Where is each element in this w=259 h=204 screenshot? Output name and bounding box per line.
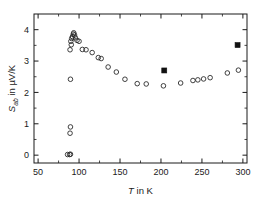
- x-tick-label: 100: [72, 167, 87, 177]
- data-point-filled-square: [162, 68, 167, 73]
- data-point-open-circle: [68, 47, 73, 52]
- y-tick-label: 4: [24, 25, 29, 35]
- data-point-open-circle: [161, 84, 166, 89]
- x-axis-major-ticks: [38, 14, 243, 163]
- data-point-open-circle: [196, 78, 201, 83]
- x-axis-title-text: T in K: [128, 185, 153, 196]
- data-point-open-circle: [144, 82, 149, 87]
- data-point-open-circle: [135, 81, 140, 86]
- data-point-open-circle: [106, 65, 111, 70]
- data-point-open-circle: [90, 50, 95, 55]
- x-tick-label: 250: [194, 167, 209, 177]
- data-point-filled-square: [235, 43, 240, 48]
- y-tick-label: 1: [24, 119, 29, 129]
- data-point-open-circle: [96, 55, 101, 60]
- plot-frame: [34, 14, 247, 163]
- data-point-open-circle: [68, 125, 73, 130]
- data-point-open-circle: [123, 77, 128, 82]
- plot-box-border: [34, 14, 247, 163]
- y-axis-title: Sab in µV/K: [6, 64, 18, 112]
- x-axis-title: T in K: [128, 185, 153, 196]
- data-point-open-circle: [208, 75, 213, 80]
- data-markers-layer: [65, 31, 240, 157]
- x-axis-tick-labels: 50100150200250300: [33, 167, 250, 177]
- x-tick-label: 200: [153, 167, 168, 177]
- data-point-open-circle: [201, 77, 206, 82]
- y-axis-title-text: Sab in µV/K: [6, 64, 18, 112]
- x-tick-label: 50: [33, 167, 43, 177]
- data-point-open-circle: [178, 81, 183, 86]
- data-point-open-circle: [114, 70, 119, 75]
- y-tick-label: 0: [24, 150, 29, 160]
- x-tick-label: 300: [235, 167, 250, 177]
- data-point-open-circle: [236, 68, 241, 73]
- y-axis-major-ticks: [34, 30, 247, 155]
- data-point-open-circle: [225, 71, 230, 76]
- data-point-open-circle: [68, 77, 73, 82]
- x-tick-label: 150: [113, 167, 128, 177]
- data-point-open-circle: [68, 131, 73, 136]
- data-point-open-circle: [99, 56, 104, 61]
- y-tick-label: 3: [24, 56, 29, 66]
- plot-canvas: 50100150200250300 01234 T in K Sab in µV…: [0, 0, 259, 204]
- y-axis-tick-labels: 01234: [24, 25, 29, 160]
- y-tick-label: 2: [24, 88, 29, 98]
- scatter-plot-figure: 50100150200250300 01234 T in K Sab in µV…: [0, 0, 259, 204]
- y-axis-minor-ticks: [34, 45, 247, 139]
- data-point-open-circle: [191, 78, 196, 83]
- x-axis-minor-ticks: [59, 14, 223, 163]
